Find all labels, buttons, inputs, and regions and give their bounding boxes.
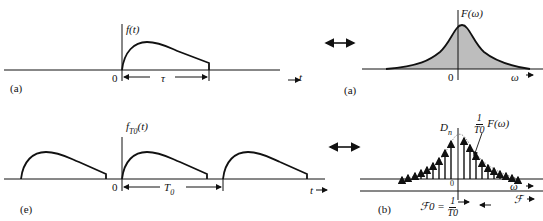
- caption-tr: (a): [344, 85, 356, 96]
- caption-bl: (e): [20, 204, 32, 215]
- envelope-pointer: [474, 133, 482, 156]
- omega-label-tr: ω: [511, 72, 519, 83]
- time-signal-plot: [4, 24, 300, 81]
- freq-label-br: ℱ: [514, 194, 523, 205]
- t-label-bl: t: [310, 185, 313, 196]
- origin-label-br: 0: [450, 180, 454, 188]
- origin-label-tr: 0: [448, 72, 454, 83]
- caption-br: (b): [378, 204, 391, 215]
- freq-spacing-label: ℱ0 = 1T0: [420, 196, 458, 218]
- pulse-period-left: [21, 152, 106, 179]
- spectral-lines: [402, 138, 518, 179]
- diagram-canvas: [0, 0, 543, 221]
- fT0-label: fT0(t): [126, 121, 148, 132]
- ft-label: f(t): [126, 24, 139, 35]
- tau-label: τ: [161, 73, 165, 84]
- origin-label-tl: 0: [112, 73, 118, 84]
- pulse-curve: [122, 42, 209, 70]
- envelope-label: 1T0 F(ω): [474, 113, 509, 135]
- pulse-period-right: [223, 152, 280, 179]
- t-label-tl: t: [299, 72, 302, 83]
- T0-label: T0: [164, 182, 174, 193]
- pulse-period-center: [122, 152, 207, 179]
- F-omega-label: F(ω): [461, 8, 483, 19]
- omega-label-br: ω: [510, 181, 518, 192]
- spectrum-plot: [362, 10, 543, 80]
- origin-label-bl: 0: [112, 182, 118, 193]
- Dn-label: Dn: [440, 122, 452, 133]
- caption-tl: (a): [10, 83, 22, 94]
